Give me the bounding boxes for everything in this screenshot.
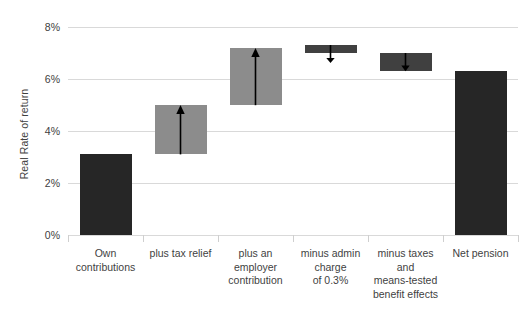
x-axis-category-label: plus tax relief (143, 247, 218, 261)
x-tickmark (293, 235, 294, 242)
x-axis-category-label-line: minus admin (293, 247, 368, 261)
arrow-down-icon (399, 53, 412, 71)
gridline (68, 183, 518, 184)
y-tick-label: 8% (26, 22, 60, 33)
x-axis-category-label-line: of 0.3% (293, 274, 368, 288)
x-axis-category-label: Net pension (443, 247, 518, 261)
gridline (68, 131, 518, 132)
y-axis-tick-labels: 0%2%4%6%8% (26, 27, 60, 235)
x-axis-category-label: Owncontributions (68, 247, 143, 274)
x-axis-labels: Owncontributionsplus tax reliefplus anem… (68, 247, 518, 319)
arrow-up-icon (174, 105, 187, 154)
x-axis-category-label-line: employer (218, 261, 293, 275)
x-tickmark (443, 235, 444, 242)
y-tick-label: 4% (26, 126, 60, 137)
x-tickmark (218, 235, 219, 242)
x-axis-category-label-line: charge (293, 261, 368, 275)
y-tick-label: 0% (26, 230, 60, 241)
x-axis-category-label-line: plus tax relief (143, 247, 218, 261)
x-axis-category-label: minus taxesandmeans-testedbenefit effect… (368, 247, 443, 301)
y-tick-label: 6% (26, 74, 60, 85)
waterfall-chart: Real Rate of return 0%2%4%6%8% Owncontri… (0, 0, 525, 323)
x-axis-category-label-line: contribution (218, 274, 293, 288)
x-axis-category-label-line: Net pension (443, 247, 518, 261)
gridline (68, 79, 518, 80)
x-axis-category-label-line: Own (68, 247, 143, 261)
y-tick-label: 2% (26, 178, 60, 189)
x-axis-category-label-line: and (368, 261, 443, 275)
x-tickmark (68, 235, 69, 242)
x-axis-category-label-line: contributions (68, 261, 143, 275)
x-axis-category-label: plus anemployercontribution (218, 247, 293, 288)
bar-total (80, 154, 132, 235)
x-axis-category-label-line: plus an (218, 247, 293, 261)
x-axis-category-label-line: benefit effects (368, 288, 443, 302)
x-tickmark (143, 235, 144, 242)
gridline (68, 27, 518, 28)
arrow-down-icon (324, 45, 337, 63)
x-tickmark (368, 235, 369, 242)
plot-area (68, 27, 518, 235)
bar-total (455, 71, 507, 235)
arrow-up-icon (249, 48, 262, 105)
x-axis-category-label: minus adminchargeof 0.3% (293, 247, 368, 288)
x-axis-category-label-line: minus taxes (368, 247, 443, 261)
x-tickmark (518, 235, 519, 242)
x-axis-category-label-line: means-tested (368, 274, 443, 288)
